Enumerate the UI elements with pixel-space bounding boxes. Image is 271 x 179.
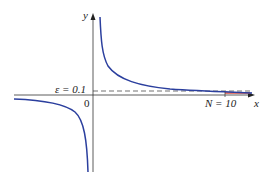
y-axis-arrow-icon xyxy=(91,13,96,20)
origin-label: 0 xyxy=(84,97,90,109)
y-axis-label: y xyxy=(83,9,88,21)
n-label: N = 10 xyxy=(205,97,236,109)
curve-positive-branch xyxy=(100,17,252,93)
hyperbola-plot xyxy=(0,0,271,179)
x-axis-label: x xyxy=(254,97,259,109)
curve-negative-branch xyxy=(14,99,88,172)
epsilon-label: ε = 0.1 xyxy=(55,83,86,95)
